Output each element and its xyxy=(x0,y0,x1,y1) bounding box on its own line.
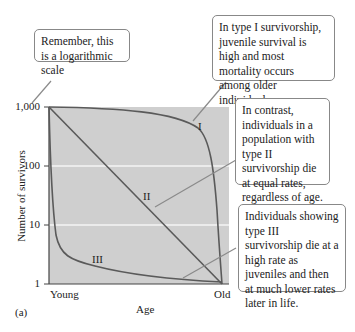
callout-type-ii: In contrast, individuals in a population… xyxy=(235,98,330,185)
panel-label: (a) xyxy=(15,306,27,318)
x-tick-label-old: Old xyxy=(214,288,231,300)
y-axis-label: Number of survivors xyxy=(15,136,27,256)
x-tick-label-young: Young xyxy=(50,288,79,300)
y-tick-label-1: 1 xyxy=(2,277,40,289)
x-axis-label: Age xyxy=(136,303,154,315)
curve-label-ii: II xyxy=(143,190,150,202)
callout-type-iii: Individuals showing type III survivorshi… xyxy=(238,204,346,292)
callout-log-note: Remember, this is a logarithmic scale xyxy=(34,29,130,62)
curve-label-i: I xyxy=(198,120,202,132)
curve-label-iii: III xyxy=(92,253,103,265)
y-tick-label-1000: 1,000 xyxy=(2,100,40,112)
callout-type-i: In type I survivorship, juvenile surviva… xyxy=(212,15,335,81)
